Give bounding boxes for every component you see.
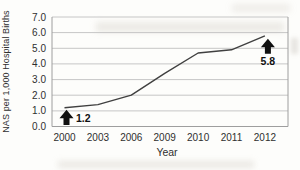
up-arrow-icon [261,39,275,54]
y-tick-label: 6.0 [32,27,46,38]
y-tick-label: 0.0 [32,121,46,132]
y-tick-label: 4.0 [32,58,46,69]
gridlines [52,17,288,111]
x-tick-label: 2011 [221,132,243,143]
y-tick-label: 5.0 [32,43,46,54]
annotations: 1.25.8 [60,39,276,125]
y-tick-label: 2.0 [32,90,46,101]
x-tick-label: 2006 [120,132,143,143]
x-tick-label: 2010 [187,132,210,143]
plot-frame [52,17,288,127]
x-tick-label: 2000 [53,132,76,143]
nas-line-chart: 0.01.02.03.04.05.06.07.0 200020032006200… [0,0,300,170]
x-axis-title: Year [156,146,178,158]
nas-trend-line [65,36,265,108]
annotation-label: 5.8 [261,55,276,67]
scanned-chart-figure: 0.01.02.03.04.05.06.07.0 200020032006200… [0,0,300,170]
x-axis-tick-labels: 2000200320062009201020112012 [53,132,276,143]
up-arrow-icon [60,110,74,125]
y-axis-tick-labels: 0.01.02.03.04.05.06.07.0 [32,12,46,133]
data-line-group [65,36,265,108]
y-axis-title: NAS per 1,000 Hospital Births [1,10,11,133]
x-tick-label: 2003 [87,132,110,143]
x-tick-label: 2012 [254,132,277,143]
y-tick-label: 1.0 [32,105,46,116]
annotation-label: 1.2 [76,112,91,124]
y-tick-label: 3.0 [32,74,46,85]
y-tick-label: 7.0 [32,12,46,23]
x-tick-label: 2009 [154,132,177,143]
